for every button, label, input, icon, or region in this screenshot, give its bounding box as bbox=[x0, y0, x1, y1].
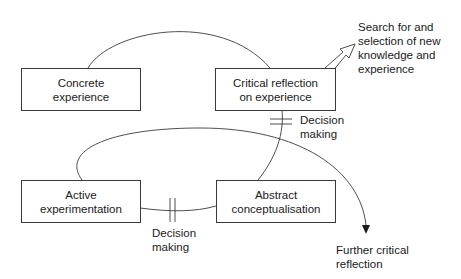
node-abstract-conceptualisation: Abstractconceptualisation bbox=[216, 180, 336, 223]
node-active-experimentation: Activeexperimentation bbox=[21, 180, 141, 223]
node-label: Critical reflection bbox=[233, 77, 318, 89]
annotation-search: Search for and selection of new knowledg… bbox=[358, 20, 440, 76]
curve-critical-abstract bbox=[258, 110, 282, 180]
node-label: experimentation bbox=[40, 203, 122, 215]
node-label: Active bbox=[65, 189, 96, 201]
annotation-decision-bottom: Decision making bbox=[152, 226, 196, 254]
node-label: on experience bbox=[239, 91, 311, 103]
line-abstract-active bbox=[140, 206, 216, 211]
node-label: experience bbox=[53, 91, 109, 103]
node-label: Concrete bbox=[58, 77, 105, 89]
node-label: conceptualisation bbox=[232, 203, 321, 215]
arc-concrete-critical bbox=[88, 32, 270, 68]
annotation-further-reflection: Further critical reflection bbox=[336, 243, 409, 271]
node-label: Abstract bbox=[255, 189, 297, 201]
annotation-decision-right: Decision making bbox=[300, 113, 344, 141]
node-critical-reflection: Critical reflectionon experience bbox=[215, 68, 336, 111]
node-concrete-experience: Concreteexperience bbox=[21, 68, 141, 111]
arrowhead-further bbox=[362, 225, 370, 234]
